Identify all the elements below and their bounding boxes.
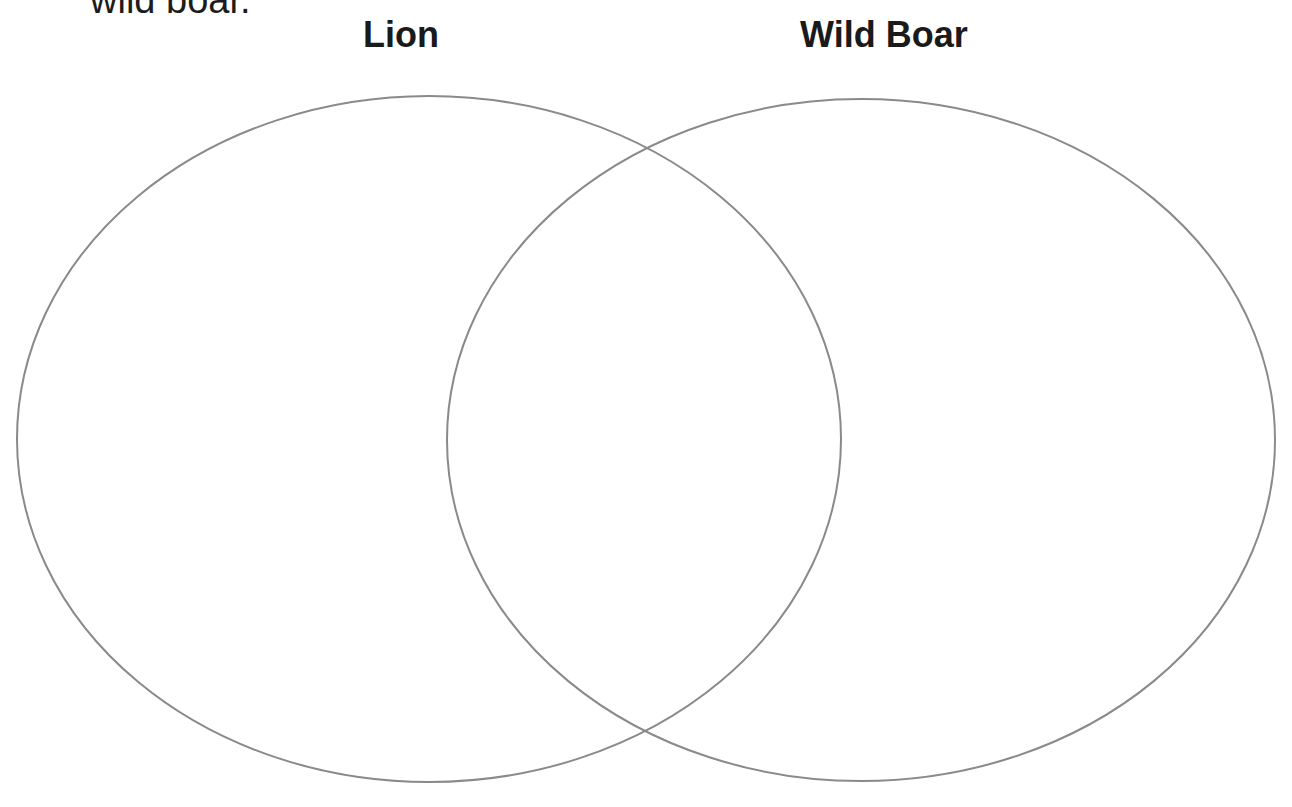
region-both[interactable]: [470, 220, 820, 660]
region-lion-only[interactable]: [60, 200, 440, 680]
region-wild-boar-only[interactable]: [860, 200, 1240, 680]
